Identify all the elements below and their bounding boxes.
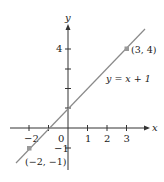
x-tick-label: 3	[124, 133, 130, 144]
point-label-3-4: (3, 4)	[131, 44, 157, 55]
point-3-4	[125, 47, 130, 52]
y-tick-label: 4	[56, 43, 62, 54]
x-axis-label: x	[152, 122, 158, 133]
y-tick-label: −1	[54, 143, 69, 154]
equation-label: y = x + 1	[105, 73, 151, 84]
x-tick-label: 2	[104, 133, 110, 144]
x-axis-arrow-icon	[144, 126, 150, 131]
y-axis-label: y	[64, 12, 71, 23]
graph: x y −2 0 1 2 3 4 −1 (3, 4) (−2, −1) y = …	[0, 0, 164, 182]
point-neg2-neg1	[27, 146, 32, 151]
x-tick-label: 1	[85, 133, 91, 144]
y-axis-arrow-icon	[66, 24, 71, 30]
point-label-neg2-neg1: (−2, −1)	[25, 156, 66, 167]
